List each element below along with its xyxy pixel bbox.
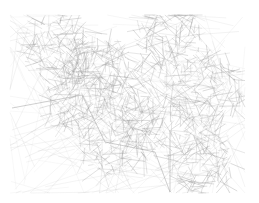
network-canvas — [0, 0, 259, 203]
edges — [10, 15, 245, 193]
